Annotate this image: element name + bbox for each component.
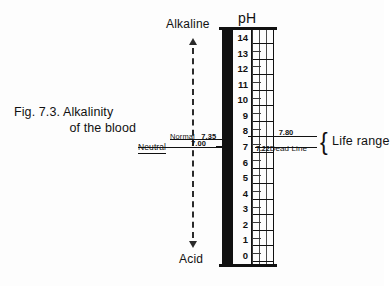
scale-cap-bottom bbox=[219, 264, 277, 267]
scale-minor-tick-mark bbox=[253, 238, 261, 239]
neutral-pointer-arrow-icon bbox=[216, 143, 232, 151]
arrow-down-icon bbox=[189, 241, 197, 248]
scale-tick-label: 5 bbox=[243, 173, 248, 183]
figure-caption: Fig. 7.3. Alkalinity of the blood bbox=[14, 104, 138, 136]
neutral-label: Neutral bbox=[138, 142, 166, 154]
scale-tick-label: 10 bbox=[237, 95, 248, 105]
deadline-label: Dead Line bbox=[270, 144, 307, 153]
scale-minor-tick-mark bbox=[253, 66, 261, 67]
scale-minor-tick-mark bbox=[253, 175, 261, 176]
scale-tick-label: 14 bbox=[237, 33, 248, 43]
scale-minor-tick-mark bbox=[253, 191, 261, 192]
scale-tick-label: 7 bbox=[243, 142, 248, 152]
scale-tick-label: 6 bbox=[243, 158, 248, 168]
scale-tick-mark bbox=[253, 230, 273, 231]
scale-tick-mark bbox=[253, 59, 273, 60]
scale-title: pH bbox=[238, 10, 257, 26]
acid-pole-label: Acid bbox=[179, 252, 203, 266]
deadline-lower-value: 7.22 bbox=[255, 145, 270, 152]
scale-tick-mark bbox=[253, 261, 273, 262]
scale-minor-tick-mark bbox=[253, 160, 261, 161]
deadline-callout: 7.80 7.22Dead Line bbox=[255, 128, 317, 152]
scale-tick-label: 4 bbox=[243, 189, 248, 199]
arrow-up-icon bbox=[189, 38, 197, 45]
scale-tick-mark bbox=[253, 43, 273, 44]
scale-tick-mark bbox=[253, 199, 273, 200]
scale-tick-label: 9 bbox=[243, 111, 248, 121]
scale-tick-label: 2 bbox=[243, 220, 248, 230]
scale-tick-mark bbox=[253, 121, 273, 122]
scale-tick-mark bbox=[253, 90, 273, 91]
scale-tick-mark bbox=[253, 168, 273, 169]
caption-line-1: Fig. 7.3. Alkalinity bbox=[14, 104, 138, 120]
scale-tick-mark bbox=[253, 105, 273, 106]
scale-tick-label: 13 bbox=[237, 49, 248, 59]
scale-tick-label: 12 bbox=[237, 64, 248, 74]
scale-tick-label: 1 bbox=[243, 235, 248, 245]
scale-minor-tick-mark bbox=[253, 98, 261, 99]
scale-minor-tick-mark bbox=[253, 207, 261, 208]
curly-brace-icon: { bbox=[320, 130, 328, 154]
scale-tick-mark bbox=[253, 74, 273, 75]
arrow-head bbox=[226, 143, 232, 151]
scale-tick-mark bbox=[253, 245, 273, 246]
scale-tick-label: 3 bbox=[243, 204, 248, 214]
scale-tick-label: 8 bbox=[243, 126, 248, 136]
scale-minor-tick-mark bbox=[253, 222, 261, 223]
scale-minor-tick-mark bbox=[253, 82, 261, 83]
scale-tick-label: 0 bbox=[243, 251, 248, 261]
scale-minor-tick-mark bbox=[253, 113, 261, 114]
scale-tick-label: 11 bbox=[238, 80, 248, 90]
life-range-label: Life range bbox=[332, 134, 390, 148]
caption-line-2: of the blood bbox=[14, 120, 138, 136]
scale-minor-tick-mark bbox=[253, 253, 261, 254]
scale-number-column: 14131211109876543210 bbox=[233, 30, 252, 264]
scale-tick-mark bbox=[253, 214, 273, 215]
alkaline-pole-label: Alkaline bbox=[166, 17, 210, 31]
scale-tick-mark bbox=[253, 183, 273, 184]
scale-minor-tick-mark bbox=[253, 51, 261, 52]
deadline-row-bottom: 7.22Dead Line bbox=[255, 137, 317, 148]
